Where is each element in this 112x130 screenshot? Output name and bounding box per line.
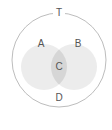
universe-label: T — [56, 7, 62, 18]
outside-label: D — [55, 92, 62, 103]
set-b-label: B — [75, 38, 82, 49]
set-a-label: A — [38, 38, 45, 49]
intersection-label: C — [55, 61, 62, 72]
venn-diagram: T A B C D — [0, 0, 112, 130]
